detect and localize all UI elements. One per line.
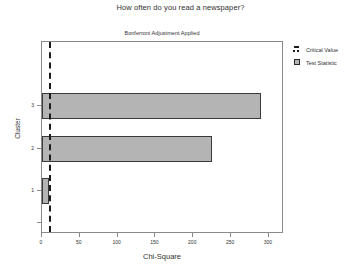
x-tick — [79, 233, 80, 237]
chart-subtitle: Bonferroni Adjustment Applied — [41, 30, 283, 36]
legend-item-critical-value: Critical Value — [291, 44, 359, 55]
x-tick — [192, 233, 193, 237]
x-tick-label: 50 — [66, 239, 92, 245]
filled-square-swatch-icon — [291, 57, 303, 68]
x-tick — [41, 233, 42, 237]
x-tick-label: 200 — [179, 239, 205, 245]
legend-label-critical-value: Critical Value — [306, 47, 338, 53]
legend-label-test-statistic: Test Statistic — [306, 60, 337, 66]
x-tick-label: 150 — [141, 239, 167, 245]
x-tick-label: 100 — [104, 239, 130, 245]
bar-cluster-1 — [42, 178, 49, 204]
y-axis-title: Cluster — [14, 99, 21, 159]
dashed-line-swatch-icon — [291, 44, 303, 55]
y-tick — [37, 222, 41, 223]
x-tick — [154, 233, 155, 237]
y-tick — [37, 190, 41, 191]
chart-title: How often do you read a newspaper? — [0, 3, 361, 12]
x-tick-label: 300 — [255, 239, 281, 245]
bar-cluster-3 — [42, 93, 261, 119]
x-axis-title: Chi-Square — [41, 252, 283, 261]
y-tick-label: 3 — [20, 102, 34, 108]
x-tick — [117, 233, 118, 237]
x-tick — [268, 233, 269, 237]
x-tick-label: 250 — [217, 239, 243, 245]
chart-legend: Critical Value Test Statistic — [291, 44, 359, 70]
y-tick — [37, 105, 41, 106]
x-tick — [230, 233, 231, 237]
bar-cluster-2 — [42, 136, 212, 162]
y-tick — [37, 148, 41, 149]
plot-area — [42, 42, 282, 232]
y-tick-label: 1 — [20, 187, 34, 193]
x-tick-label: 0 — [28, 239, 54, 245]
plot-frame — [41, 41, 283, 233]
legend-item-test-statistic: Test Statistic — [291, 57, 359, 68]
critical-value-line — [49, 42, 51, 232]
y-tick-label: 2 — [20, 145, 34, 151]
